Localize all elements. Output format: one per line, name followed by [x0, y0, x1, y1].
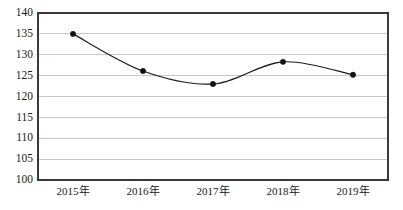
y-tick-label: 105 [16, 152, 34, 164]
y-axis-tick-labels: 100105110115120125130135140 [16, 6, 34, 185]
x-tick-label: 2017年 [197, 184, 230, 197]
x-tick-label: 2015年 [57, 184, 90, 197]
x-tick-label: 2016年 [127, 184, 160, 197]
y-tick-label: 110 [16, 131, 33, 143]
chart-background [0, 0, 403, 210]
y-tick-label: 115 [16, 111, 33, 123]
y-tick-label: 135 [16, 27, 34, 39]
y-tick-label: 120 [16, 90, 34, 102]
chart-canvas: 100105110115120125130135140 2015年2016年20… [0, 0, 403, 210]
y-tick-label: 125 [16, 69, 34, 81]
line-chart: 100105110115120125130135140 2015年2016年20… [0, 0, 403, 210]
y-tick-label: 130 [16, 48, 34, 60]
data-point-marker [350, 72, 355, 77]
data-point-marker [140, 68, 145, 73]
x-tick-label: 2019年 [337, 184, 370, 197]
data-point-marker [70, 31, 75, 36]
data-point-marker [210, 81, 215, 86]
x-tick-label: 2018年 [267, 184, 300, 197]
y-tick-label: 100 [16, 173, 34, 185]
y-tick-label: 140 [16, 6, 34, 18]
data-point-marker [280, 59, 285, 64]
